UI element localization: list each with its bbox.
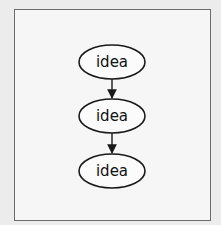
node-idea-2: idea (79, 99, 145, 133)
node-idea-3: idea (79, 154, 145, 188)
node-idea-1: idea (79, 45, 145, 79)
node-label: idea (96, 162, 128, 180)
node-label: idea (96, 107, 128, 125)
flowchart: idea idea idea (0, 0, 221, 225)
node-label: idea (96, 53, 128, 71)
